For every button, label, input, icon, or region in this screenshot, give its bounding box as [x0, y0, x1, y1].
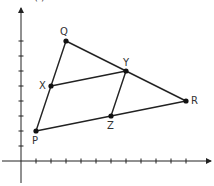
label-X: X [39, 80, 46, 91]
point-X [48, 83, 53, 88]
label-P: P [32, 135, 38, 146]
segment-YZ [111, 71, 126, 116]
coordinate-diagram: ( ) Q Y X R Z P [0, 0, 214, 186]
label-Q: Q [60, 26, 68, 37]
point-Q [63, 38, 68, 43]
label-R: R [191, 95, 198, 106]
point-P [33, 128, 38, 133]
title-partial: ( ) [34, 0, 45, 2]
segment-XY [51, 71, 126, 86]
point-Z [108, 113, 113, 118]
label-Y: Y [122, 57, 130, 68]
point-Y [123, 68, 128, 73]
point-R [183, 98, 188, 103]
label-Z: Z [107, 120, 114, 131]
